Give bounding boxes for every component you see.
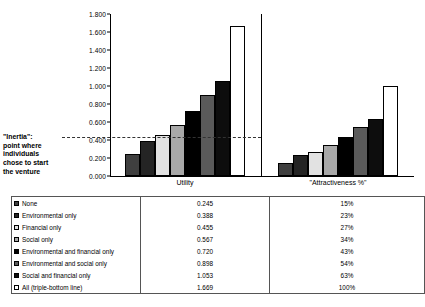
bar xyxy=(368,119,383,176)
y-tick-label: 1.600 xyxy=(89,29,106,36)
bar xyxy=(155,135,170,176)
utility-value-cell: 0.898 xyxy=(141,257,270,269)
attractiveness-value-cell: 54% xyxy=(270,257,425,269)
y-tick-label: 1.400 xyxy=(89,47,106,54)
legend-cell: None xyxy=(12,197,141,210)
utility-value-cell: 0.245 xyxy=(141,197,270,210)
bar xyxy=(323,145,338,176)
table-row: Environmental only0.38823% xyxy=(12,209,425,221)
utility-value-cell: 0.388 xyxy=(141,209,270,221)
y-tick-label: 0.600 xyxy=(89,119,106,126)
attractiveness-value-cell: 100% xyxy=(270,281,425,294)
bar xyxy=(293,155,308,176)
table-row: All (triple-bottom line)1.669100% xyxy=(12,281,425,294)
inertia-line-4: chose to start xyxy=(3,159,63,168)
legend-label: Social only xyxy=(22,236,53,243)
legend-cell: Social and financial only xyxy=(12,269,141,281)
legend-label: Environmental only xyxy=(22,212,76,219)
legend-label: Social and financial only xyxy=(22,272,91,279)
bar xyxy=(125,154,140,176)
bar xyxy=(170,125,185,176)
legend-cell: Environmental only xyxy=(12,209,141,221)
bar xyxy=(338,137,353,176)
legend-swatch-icon xyxy=(14,273,19,278)
bar xyxy=(308,152,323,176)
legend-label: None xyxy=(22,200,37,207)
attractiveness-value-cell: 43% xyxy=(270,245,425,257)
category-separator xyxy=(261,14,262,176)
y-tick-label: 0.200 xyxy=(89,155,106,162)
inertia-reference-line xyxy=(62,137,261,138)
table-row: Financial only0.45527% xyxy=(12,221,425,233)
inertia-line-5: the venture xyxy=(3,168,63,177)
legend-label: Environmental and financial only xyxy=(22,248,114,255)
data-table-container: None0.24515%Environmental only0.38823%Fi… xyxy=(11,196,411,298)
table-row: Social and financial only1.05363% xyxy=(12,269,425,281)
bar xyxy=(230,26,245,176)
legend-cell: Social only xyxy=(12,233,141,245)
attractiveness-value-cell: 27% xyxy=(270,221,425,233)
bar xyxy=(278,163,293,177)
y-tick-label: 1.200 xyxy=(89,65,106,72)
y-tick-label: 0.800 xyxy=(89,101,106,108)
utility-value-cell: 0.567 xyxy=(141,233,270,245)
inertia-annotation: "Inertia": point where individuals chose… xyxy=(3,133,63,176)
plot-area xyxy=(111,14,414,176)
utility-value-cell: 0.455 xyxy=(141,221,270,233)
legend-swatch-icon xyxy=(14,249,19,254)
x-axis-line xyxy=(110,176,414,177)
legend-cell: All (triple-bottom line) xyxy=(12,281,141,294)
y-tick-label: 1.000 xyxy=(89,83,106,90)
attractiveness-value-cell: 34% xyxy=(270,233,425,245)
bar xyxy=(215,81,230,176)
bar xyxy=(140,141,155,176)
legend-swatch-icon xyxy=(14,261,19,266)
y-tick-label: 0.000 xyxy=(89,173,106,180)
legend-label: Environmental and social only xyxy=(22,260,107,267)
legend-swatch-icon xyxy=(14,201,19,206)
inertia-line-3: individuals xyxy=(3,150,63,159)
legend-cell: Environmental and financial only xyxy=(12,245,141,257)
utility-value-cell: 0.720 xyxy=(141,245,270,257)
utility-value-cell: 1.669 xyxy=(141,281,270,294)
inertia-line-2: point where xyxy=(3,142,63,151)
bar-chart-plot: 0.0000.2000.4000.6000.8001.0001.2001.400… xyxy=(0,0,419,192)
attractiveness-value-cell: 23% xyxy=(270,209,425,221)
table-row: Social only0.56734% xyxy=(12,233,425,245)
attractiveness-value-cell: 63% xyxy=(270,269,425,281)
legend-label: Financial only xyxy=(22,224,61,231)
utility-value-cell: 1.053 xyxy=(141,269,270,281)
legend-swatch-icon xyxy=(14,237,19,242)
table-row: Environmental and financial only0.72043% xyxy=(12,245,425,257)
x-axis-label-utility: Utility xyxy=(105,179,265,186)
data-table-body: None0.24515%Environmental only0.38823%Fi… xyxy=(12,197,425,294)
y-tick-label: 1.800 xyxy=(89,11,106,18)
attractiveness-value-cell: 15% xyxy=(270,197,425,210)
inertia-line-1: "Inertia": xyxy=(3,133,63,142)
legend-swatch-icon xyxy=(14,285,19,290)
legend-cell: Financial only xyxy=(12,221,141,233)
table-row: Environmental and social only0.89854% xyxy=(12,257,425,269)
legend-swatch-icon xyxy=(14,225,19,230)
legend-swatch-icon xyxy=(14,213,19,218)
legend-label: All (triple-bottom line) xyxy=(22,284,82,291)
y-axis-tick-labels: 0.0000.2000.4000.6000.8001.0001.2001.400… xyxy=(62,14,106,176)
x-axis-label-attractiveness: "Attractiveness %" xyxy=(258,179,418,186)
bar xyxy=(185,111,200,176)
bar xyxy=(383,86,398,176)
bar xyxy=(200,95,215,176)
legend-cell: Environmental and social only xyxy=(12,257,141,269)
data-table: None0.24515%Environmental only0.38823%Fi… xyxy=(11,196,425,294)
table-row: None0.24515% xyxy=(12,197,425,210)
bar xyxy=(353,127,368,176)
